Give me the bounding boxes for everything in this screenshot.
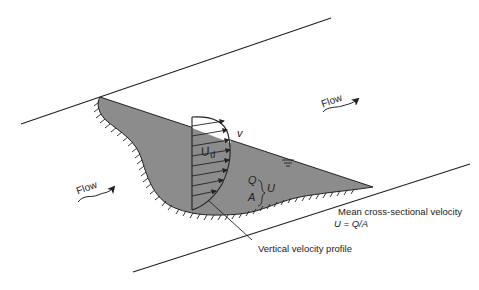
- area-label: A: [248, 191, 255, 203]
- depth-avg-velocity-label: Ud: [200, 143, 216, 162]
- mean-velocity-title: Mean cross-sectional velocity: [338, 206, 462, 217]
- mean-velocity-formula: U = Q/A: [334, 218, 368, 229]
- profile-caption: Vertical velocity profile: [258, 243, 352, 254]
- channel-diagram: [0, 0, 479, 290]
- mean-velocity-symbol: U: [267, 182, 275, 194]
- channel-cross-section: [98, 97, 373, 215]
- discharge-label: Q: [248, 174, 257, 186]
- depth-avg-velocity-subscript: d: [209, 149, 216, 160]
- local-velocity-label: v: [237, 127, 243, 139]
- upper-bank-line: [21, 18, 331, 124]
